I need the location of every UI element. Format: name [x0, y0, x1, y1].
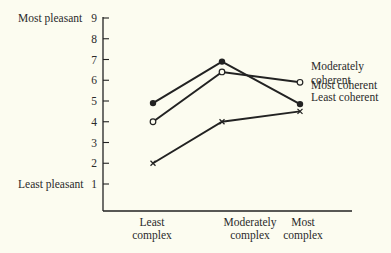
series-label-least-coherent: Least coherent	[311, 91, 379, 103]
y-tick-label: 6	[91, 74, 97, 86]
axes	[103, 17, 352, 211]
series-line-most-coherent	[153, 62, 300, 105]
series-label-moderately-coherent: Moderately	[311, 60, 364, 73]
least-pleasant-label: Least pleasant	[18, 178, 84, 191]
y-tick-label: 9	[91, 12, 97, 24]
y-axis-labels: 123456789Most pleasantLeast pleasant	[18, 12, 97, 191]
open-circle-marker	[219, 69, 225, 75]
series-label-most-coherent: Most coherent	[311, 79, 378, 91]
x-category-label: complex	[132, 229, 172, 242]
y-tick-label: 7	[91, 54, 97, 66]
y-tick-label: 5	[91, 95, 97, 107]
x-category-label: Least	[140, 216, 166, 228]
filled-circle-marker	[150, 100, 156, 106]
line-chart: 123456789Most pleasantLeast pleasant Lea…	[0, 0, 391, 253]
y-tick-label: 2	[91, 157, 97, 169]
series-labels: ModeratelycoherentMost coherentLeast coh…	[311, 60, 379, 103]
filled-circle-marker	[219, 58, 225, 64]
x-category-label: Moderately	[223, 216, 276, 229]
x-category-label: complex	[230, 229, 270, 242]
x-category-label: Most	[291, 216, 315, 228]
y-tick-label: 8	[91, 33, 97, 45]
y-tick-label: 4	[91, 116, 97, 128]
open-circle-marker	[297, 80, 303, 86]
most-pleasant-label: Most pleasant	[18, 12, 83, 25]
open-circle-marker	[150, 119, 156, 125]
x-category-label: complex	[283, 229, 323, 242]
x-axis-labels: LeastcomplexModeratelycomplexMostcomplex	[132, 216, 323, 242]
y-tick-label: 3	[91, 137, 97, 149]
series-line-least-coherent	[153, 111, 300, 163]
y-tick-label: 1	[91, 178, 97, 190]
filled-circle-marker	[297, 101, 303, 107]
series-group	[150, 58, 303, 165]
